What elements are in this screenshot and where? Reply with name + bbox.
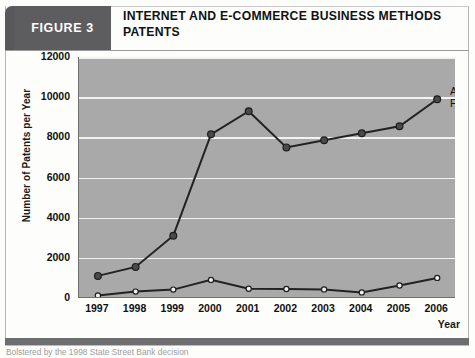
y-tick-label: 12000 xyxy=(22,50,70,62)
y-tick-label: 8000 xyxy=(22,130,70,142)
chart-area: Number of Patents per Year 0200040006000… xyxy=(0,50,475,312)
data-point-marker xyxy=(434,96,441,103)
data-point-marker xyxy=(397,283,402,288)
x-tick-label: 2006 xyxy=(408,302,464,314)
data-point-marker xyxy=(246,286,251,291)
data-point-marker xyxy=(95,293,100,298)
series-line xyxy=(98,278,437,296)
data-point-marker xyxy=(245,108,252,115)
data-point-marker xyxy=(284,286,289,291)
figure-caption: Bolstered by the 1998 State Street Bank … xyxy=(6,348,466,357)
data-point-marker xyxy=(359,290,364,295)
data-point-marker xyxy=(435,275,440,280)
data-point-marker xyxy=(358,130,365,137)
data-point-marker xyxy=(322,287,327,292)
data-point-marker xyxy=(208,277,213,282)
data-point-marker xyxy=(171,287,176,292)
data-point-marker xyxy=(133,289,138,294)
data-point-marker xyxy=(321,137,328,144)
data-point-marker xyxy=(132,264,139,271)
y-tick-label: 4000 xyxy=(22,211,70,223)
footer-bar xyxy=(5,338,469,345)
figure-panel: FIGURE 3 INTERNET AND E-COMMERCE BUSINES… xyxy=(0,0,475,358)
footer-divider xyxy=(5,345,469,346)
figure-header: FIGURE 3 INTERNET AND E-COMMERCE BUSINES… xyxy=(5,6,469,50)
series-lines xyxy=(79,57,455,298)
series-label-applied-for: Applied For xyxy=(450,85,455,109)
figure-number-label: FIGURE 3 xyxy=(31,21,93,35)
data-point-marker xyxy=(283,144,290,151)
y-tick-label: 2000 xyxy=(22,251,70,263)
x-axis-title: Year xyxy=(410,318,460,330)
series-line xyxy=(98,99,437,276)
data-point-marker xyxy=(170,232,177,239)
data-point-marker xyxy=(208,131,215,138)
plot-region: Applied For Granted xyxy=(78,57,455,298)
y-tick-label: 10000 xyxy=(22,90,70,102)
figure-number-tab: FIGURE 3 xyxy=(5,6,111,50)
y-tick-label: 6000 xyxy=(22,171,70,183)
data-point-marker xyxy=(396,123,403,130)
data-point-marker xyxy=(95,273,102,280)
y-tick-label: 0 xyxy=(22,291,70,303)
figure-title: INTERNET AND E-COMMERCE BUSINESS METHODS… xyxy=(123,9,463,40)
